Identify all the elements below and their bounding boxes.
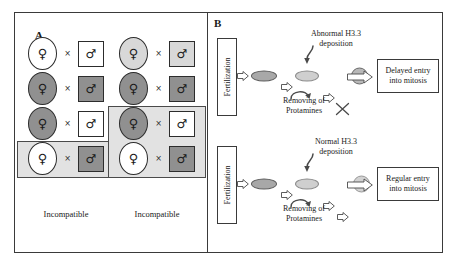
female-symbol[interactable]: ♀ — [28, 107, 57, 140]
male-glyph: ♂ — [86, 48, 97, 60]
female-glyph: ♀ — [38, 47, 48, 60]
female-symbol[interactable]: ♀ — [28, 72, 57, 105]
result-box-abnormal: Delayed entry into mitosis — [377, 59, 439, 93]
male-symbol[interactable]: ♂ — [169, 76, 195, 102]
cross-row[interactable]: ♀ × ♂ — [113, 106, 201, 141]
result-line-1: Delayed entry — [385, 66, 430, 76]
cross-operator: × — [155, 119, 162, 128]
cross-row[interactable]: ♀ × ♂ — [22, 141, 110, 176]
female-symbol[interactable]: ♀ — [28, 37, 57, 70]
cross-operator: × — [155, 49, 162, 58]
female-glyph: ♀ — [129, 152, 139, 165]
arrow-to-result-icon — [347, 178, 369, 191]
cross-operator: × — [64, 119, 71, 128]
fertilization-box-normal: Fertilization — [217, 146, 237, 224]
male-glyph: ♂ — [177, 118, 188, 130]
arrow-to-result-icon — [347, 70, 369, 83]
deposition-line-2: deposition — [319, 39, 352, 48]
male-glyph: ♂ — [86, 153, 97, 165]
female-glyph: ♀ — [38, 82, 48, 95]
fertilization-label: Fertilization — [223, 57, 232, 96]
caption-right: Incompatible — [113, 209, 201, 219]
male-glyph: ♂ — [177, 153, 188, 165]
cross-row[interactable]: ♀ × ♂ — [113, 71, 201, 106]
deposition-line-1: Abnormal H3.3 — [311, 29, 361, 38]
male-symbol[interactable]: ♂ — [169, 146, 195, 172]
result-line-1: Regular entry — [386, 174, 430, 184]
deposition-line-2: deposition — [319, 147, 352, 156]
female-symbol[interactable]: ♀ — [119, 142, 148, 175]
cross-operator: × — [64, 154, 71, 163]
arrow-icon — [237, 179, 249, 190]
cross-column-right: ♀ × ♂ ♀ × ♂ ♀ × — [113, 36, 201, 176]
male-symbol[interactable]: ♂ — [169, 111, 195, 137]
fertilization-label: Fertilization — [223, 165, 232, 204]
cross-row[interactable]: ♀ × ♂ — [22, 71, 110, 106]
cross-row[interactable]: ♀ × ♂ — [22, 106, 110, 141]
female-symbol[interactable]: ♀ — [28, 142, 57, 175]
deposition-curved-arrow-icon — [301, 45, 319, 65]
caption-left: Incompatible — [22, 209, 110, 219]
result-line-2: into mitosis — [389, 184, 427, 194]
cross-column-left: ♀ × ♂ ♀ × ♂ ♀ × — [22, 36, 110, 176]
protamines-annotation-normal: Removing of Protamines — [259, 204, 349, 224]
cross-operator: × — [155, 84, 162, 93]
female-symbol[interactable]: ♀ — [119, 107, 148, 140]
male-symbol[interactable]: ♂ — [78, 146, 104, 172]
male-symbol[interactable]: ♂ — [78, 111, 104, 137]
cross-row[interactable]: ♀ × ♂ — [113, 141, 201, 176]
male-glyph: ♂ — [177, 48, 188, 60]
sperm-nucleus-condensed — [251, 71, 277, 82]
male-glyph: ♂ — [177, 83, 188, 95]
deposition-line-1: Normal H3.3 — [315, 137, 357, 146]
female-glyph: ♀ — [129, 47, 139, 60]
figure-root: A ♀ × ♂ ♀ × ♂ — [0, 0, 457, 265]
female-glyph: ♀ — [129, 117, 139, 130]
arrow-icon — [237, 71, 249, 82]
cross-row[interactable]: ♀ × ♂ — [113, 36, 201, 71]
protamines-line-1: Removing of — [283, 96, 325, 105]
result-line-2: into mitosis — [389, 76, 427, 86]
deposition-curved-arrow-icon — [301, 153, 319, 173]
female-glyph: ♀ — [129, 82, 139, 95]
female-symbol[interactable]: ♀ — [119, 72, 148, 105]
cross-operator: × — [64, 49, 71, 58]
sperm-nucleus-decondensing — [295, 179, 319, 190]
fertilization-box-abnormal: Fertilization — [217, 38, 237, 116]
sperm-nucleus-decondensing — [295, 71, 319, 82]
male-symbol[interactable]: ♂ — [78, 41, 104, 67]
sperm-nucleus-condensed — [251, 179, 277, 190]
male-symbol[interactable]: ♂ — [78, 76, 104, 102]
female-glyph: ♀ — [38, 152, 48, 165]
male-glyph: ♂ — [86, 83, 97, 95]
panel-b: B Fertilization — [207, 12, 443, 253]
cross-row[interactable]: ♀ × ♂ — [22, 36, 110, 71]
protamines-line-2: Protamines — [286, 214, 322, 223]
panel-a: A ♀ × ♂ ♀ × ♂ — [14, 12, 207, 253]
protamines-line-1: Removing of — [283, 204, 325, 213]
male-symbol[interactable]: ♂ — [169, 41, 195, 67]
cross-operator: × — [64, 84, 71, 93]
female-glyph: ♀ — [38, 117, 48, 130]
protamines-annotation-abnormal: Removing of Protamines — [259, 96, 349, 116]
male-glyph: ♂ — [86, 118, 97, 130]
female-symbol[interactable]: ♀ — [119, 37, 148, 70]
protamines-line-2: Protamines — [286, 106, 322, 115]
pathway-normal: Fertilization — [207, 134, 443, 246]
pathway-abnormal: Fertilization — [207, 26, 443, 138]
result-box-normal: Regular entry into mitosis — [377, 167, 439, 201]
cross-operator: × — [155, 154, 162, 163]
